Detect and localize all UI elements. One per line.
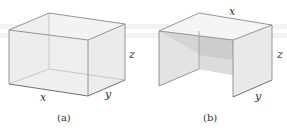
- figure-b-table-shape: x z y (b): [159, 5, 283, 123]
- label-z: z: [128, 48, 135, 61]
- caption-a: (a): [57, 112, 71, 123]
- label-z: z: [276, 48, 283, 61]
- figure-a-open-box: x y z (a): [9, 13, 135, 123]
- label-y: y: [104, 88, 112, 101]
- label-y: y: [254, 90, 262, 103]
- label-x: x: [40, 91, 47, 104]
- diagram-canvas: x y z (a) x z y (b): [0, 0, 287, 128]
- caption-b: (b): [203, 112, 217, 123]
- label-x: x: [229, 5, 236, 18]
